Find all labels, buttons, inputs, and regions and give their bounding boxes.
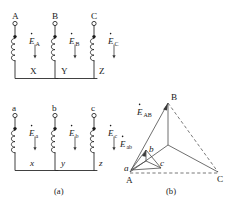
- hv-polarity-dot-C: [92, 35, 95, 38]
- phasor-star-NC: [168, 145, 218, 172]
- lv-polarity-dot-b: [53, 127, 56, 130]
- lv-coil-c: [90, 130, 94, 152]
- lv-polarity-dot-c: [92, 127, 95, 130]
- transformer-figure: A X E A B Y E B: [0, 0, 230, 209]
- phasor-star-nc: [146, 161, 161, 168]
- lv-winding-c: c z E c: [90, 103, 117, 171]
- phasor-vertex-A-label: A: [126, 175, 133, 185]
- hv-polarity-dot-B: [53, 35, 56, 38]
- phasor-vertex-c-label: c: [160, 158, 164, 168]
- caption-b: (b): [166, 186, 176, 196]
- hv-terminal-Y-label: Y: [61, 66, 68, 76]
- caption-a: (a): [54, 186, 64, 196]
- lv-terminal-a-label: a: [12, 103, 16, 113]
- lv-terminal-c-node: [92, 113, 96, 117]
- phasor-vertex-B-label: B: [171, 92, 177, 102]
- hv-emf-dot-C: [110, 33, 112, 35]
- hv-terminal-A-node: [13, 21, 17, 25]
- lv-emf-subscript-c: c: [114, 133, 117, 139]
- hv-terminal-B-label: B: [52, 11, 58, 21]
- hv-terminal-Z-label: Z: [99, 66, 105, 76]
- lv-emf-dot-b: [71, 125, 73, 127]
- hv-coil-A: [11, 38, 15, 60]
- phasor-Eab-dot: [122, 136, 124, 138]
- lv-bottom-lead-a: [15, 153, 58, 171]
- lv-emf-symbol-a: E: [28, 128, 35, 138]
- lv-winding-a: a x E a: [11, 103, 58, 171]
- lv-emf-subscript-a: a: [35, 133, 38, 139]
- hv-emf-symbol-C: E: [107, 36, 114, 46]
- lv-terminal-x-label: x: [29, 158, 35, 168]
- lv-winding-group: a x E a b y E b c: [11, 103, 117, 171]
- phasor-edge-BC: [168, 103, 218, 172]
- hv-terminal-C-node: [92, 21, 96, 25]
- lv-emf-symbol-c: E: [107, 128, 114, 138]
- hv-emf-dot-A: [31, 33, 33, 35]
- hv-coil-B: [51, 38, 55, 60]
- phasor-EAB-symbol: E: [136, 107, 143, 117]
- lv-coil-a: [11, 130, 15, 152]
- hv-terminal-B-node: [53, 21, 57, 25]
- hv-winding-b: B Y E B: [51, 11, 97, 79]
- hv-terminal-X-label: X: [30, 66, 37, 76]
- lv-coil-b: [51, 130, 55, 152]
- phasor-Eab-subscript: ab: [126, 144, 132, 150]
- hv-emf-subscript-C: C: [114, 41, 118, 47]
- lv-terminal-z-label: z: [98, 158, 103, 168]
- lv-emf-symbol-b: E: [68, 128, 75, 138]
- lv-emf-dot-c: [110, 125, 112, 127]
- lv-terminal-y-label: y: [60, 158, 66, 168]
- phasor-EAB-subscript: AB: [143, 112, 151, 118]
- lv-winding-b: b y E b: [51, 103, 97, 171]
- phasor-arrowhead-AB: [163, 103, 168, 111]
- lv-terminal-b-label: b: [52, 103, 57, 113]
- hv-emf-subscript-A: A: [35, 41, 40, 47]
- lv-emf-dot-a: [31, 125, 33, 127]
- hv-terminal-A-label: A: [12, 11, 19, 21]
- lv-terminal-a-node: [13, 113, 17, 117]
- phasor-arrowhead-ab: [142, 150, 146, 157]
- lv-terminal-b-node: [53, 113, 57, 117]
- phasor-label-EAB: E AB: [136, 104, 152, 119]
- phasor-EAB-dot: [139, 104, 141, 106]
- hv-emf-symbol-B: E: [68, 36, 75, 46]
- phasor-label-Eab: E ab: [119, 136, 132, 151]
- hv-winding-c: C Z E C: [90, 11, 118, 79]
- lv-emf-subscript-b: b: [75, 133, 78, 139]
- hv-winding-a: A X E A: [11, 11, 58, 79]
- hv-emf-dot-B: [71, 33, 73, 35]
- hv-polarity-dot-A: [13, 35, 16, 38]
- hv-terminal-C-label: C: [91, 11, 97, 21]
- phasor-vertex-a-label: a: [124, 163, 129, 173]
- lv-polarity-dot-a: [13, 127, 16, 130]
- hv-coil-C: [90, 38, 94, 60]
- phasor-diagram-group: A B C a b c E AB E ab: [119, 92, 223, 185]
- hv-emf-symbol-A: E: [28, 36, 35, 46]
- phasor-Eab-symbol: E: [119, 139, 126, 149]
- phasor-vertex-C-label: C: [217, 174, 223, 184]
- lv-terminal-c-label: c: [91, 103, 95, 113]
- phasor-edge-ab: [131, 150, 146, 170]
- hv-emf-subscript-B: B: [75, 41, 79, 47]
- hv-winding-group: A X E A B Y E B: [11, 11, 118, 79]
- phasor-vertex-b-label: b: [149, 144, 154, 154]
